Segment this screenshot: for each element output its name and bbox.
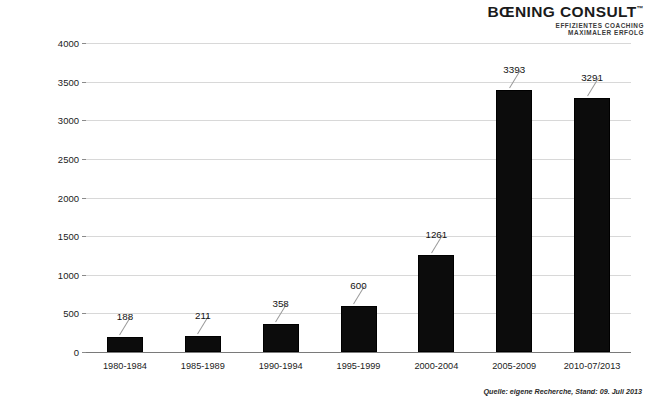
y-axis-tick-label: 0 — [74, 347, 79, 358]
y-axis-tick-mark — [82, 82, 86, 83]
logo-tagline-line1: EFFIZIENTES COACHING — [487, 23, 644, 29]
y-axis-tick-label: 3500 — [58, 76, 79, 87]
gridline — [86, 198, 631, 199]
logo-tagline-line2: MAXIMALER ERFOLG — [487, 30, 644, 36]
y-axis-tick-label: 3000 — [58, 115, 79, 126]
y-axis-tick-label: 500 — [63, 308, 79, 319]
logo-trademark-icon: ™ — [637, 5, 644, 12]
logo-wordmark: BŒNING CONSULT™ — [487, 4, 644, 20]
gridline — [86, 120, 631, 121]
x-axis-category-label: 1985-1989 — [181, 361, 225, 371]
y-axis-tick-mark — [82, 275, 86, 276]
bar — [574, 98, 610, 352]
x-axis-category-label: 2005-2009 — [492, 361, 536, 371]
gridline — [86, 275, 631, 276]
gridline — [86, 236, 631, 237]
bar-value-label: 188 — [117, 311, 133, 322]
y-axis-tick-mark — [82, 120, 86, 121]
bar-value-label: 3393 — [503, 64, 525, 75]
y-axis-tick-label: 2500 — [58, 153, 79, 164]
y-axis-tick-mark — [82, 43, 86, 44]
logo-tagline: EFFIZIENTES COACHING MAXIMALER ERFOLG — [487, 23, 644, 37]
bar-value-label: 1261 — [425, 229, 447, 240]
y-axis-tick-label: 4000 — [58, 38, 79, 49]
plot-area: 050010001500200025003000350040001881980-… — [86, 43, 631, 352]
x-axis-category-label: 1990-1994 — [259, 361, 303, 371]
y-axis-tick-mark — [82, 313, 86, 314]
source-note: Quelle: eigene Recherche, Stand: 09. Jul… — [483, 387, 642, 396]
gridline — [86, 159, 631, 160]
y-axis-tick-mark — [82, 352, 86, 353]
x-axis-category-label: 1980-1984 — [103, 361, 147, 371]
x-axis-category-label: 2000-2004 — [414, 361, 458, 371]
bar — [263, 324, 299, 352]
y-axis-tick-label: 2000 — [58, 192, 79, 203]
y-axis-tick-mark — [82, 198, 86, 199]
company-logo: BŒNING CONSULT™ EFFIZIENTES COACHING MAX… — [487, 4, 644, 37]
x-axis-category-label: 2010-07/2013 — [564, 361, 621, 371]
bar — [418, 255, 454, 352]
gridline — [86, 43, 631, 44]
bar — [185, 336, 221, 352]
y-axis-tick-mark — [82, 159, 86, 160]
y-axis-tick-label: 1500 — [58, 231, 79, 242]
x-axis-category-label: 1995-1999 — [337, 361, 381, 371]
bar — [496, 90, 532, 352]
x-axis-line — [86, 352, 631, 353]
bar-value-label: 211 — [195, 310, 211, 321]
y-axis-tick-mark — [82, 236, 86, 237]
bar — [341, 306, 377, 352]
bar — [107, 337, 143, 352]
gridline — [86, 82, 631, 83]
bar-value-label: 3291 — [581, 72, 603, 83]
bar-value-label: 358 — [272, 298, 288, 309]
chart-canvas: BŒNING CONSULT™ EFFIZIENTES COACHING MAX… — [0, 0, 652, 413]
y-axis-tick-label: 1000 — [58, 269, 79, 280]
logo-name: BŒNING CONSULT — [487, 3, 636, 20]
bar-value-label: 600 — [350, 280, 366, 291]
